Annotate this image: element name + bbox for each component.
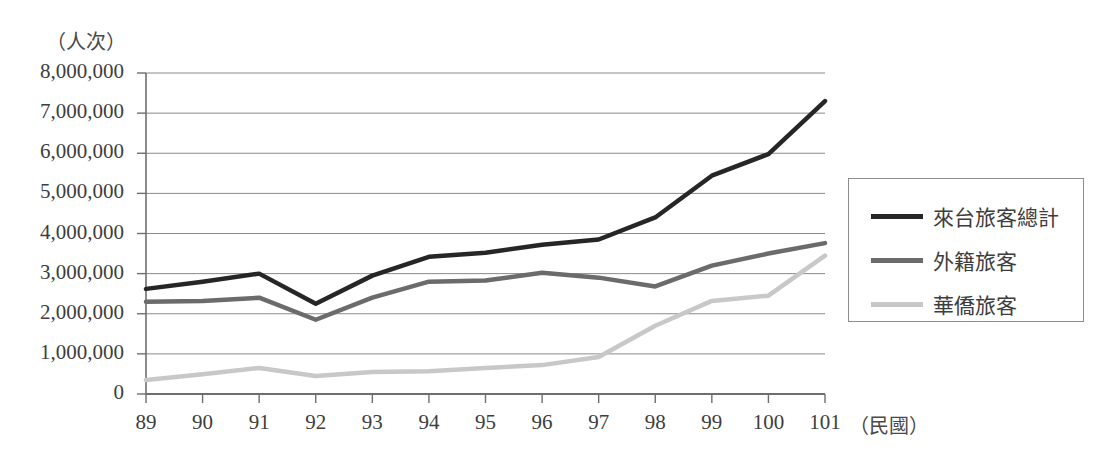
x-axis-caption: （民國） <box>849 410 929 439</box>
legend-item-label: 來台旅客總計 <box>933 201 1059 231</box>
x-tick-label: 94 <box>401 410 457 435</box>
legend-item-label: 華僑旅客 <box>933 289 1017 319</box>
y-tick-label: 1,000,000 <box>0 340 124 365</box>
y-tick-label: 3,000,000 <box>0 260 124 285</box>
y-tick-label: 6,000,000 <box>0 139 124 164</box>
y-tick-label: 5,000,000 <box>0 179 124 204</box>
x-tick-label: 97 <box>571 410 627 435</box>
legend-item[interactable]: 華僑旅客 <box>871 289 1017 319</box>
x-tick-label: 98 <box>627 410 683 435</box>
legend-item[interactable]: 外籍旅客 <box>871 245 1017 275</box>
legend-color-swatch <box>871 214 923 219</box>
legend-color-swatch <box>871 302 923 307</box>
x-tick-label: 91 <box>231 410 287 435</box>
y-tick-label: 8,000,000 <box>0 59 124 84</box>
chart-legend: 來台旅客總計外籍旅客華僑旅客 <box>848 178 1084 322</box>
legend-color-swatch <box>871 258 923 263</box>
y-tick-label: 7,000,000 <box>0 99 124 124</box>
y-tick-label: 2,000,000 <box>0 300 124 325</box>
legend-item[interactable]: 來台旅客總計 <box>871 201 1059 231</box>
x-tick-label: 90 <box>175 410 231 435</box>
legend-item-label: 外籍旅客 <box>933 245 1017 275</box>
x-tick-label: 95 <box>458 410 514 435</box>
y-tick-label: 0 <box>0 380 124 405</box>
x-tick-label: 101 <box>797 410 853 435</box>
x-tick-label: 99 <box>684 410 740 435</box>
x-tick-label: 89 <box>118 410 174 435</box>
chart-container: （人次） 01,000,0002,000,0003,000,0004,000,0… <box>0 0 1107 462</box>
x-tick-label: 92 <box>288 410 344 435</box>
x-tick-label: 96 <box>514 410 570 435</box>
x-tick-label: 100 <box>740 410 796 435</box>
y-tick-label: 4,000,000 <box>0 220 124 245</box>
x-tick-label: 93 <box>344 410 400 435</box>
